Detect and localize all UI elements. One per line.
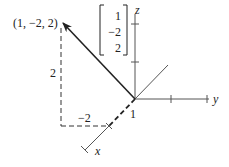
y-axis-label: y [212,92,219,106]
column-vector: 1 −2 2 [100,5,127,55]
z-axis [131,14,139,99]
left-bracket [100,5,104,55]
x-axis-label: x [94,144,101,158]
diagonal-guide-line [135,65,168,99]
x-axis-end-tick [81,146,88,153]
z-axis-label: z [134,3,140,17]
vector-entry-2: −2 [108,25,121,39]
vector-diagram: z y x (1, −2, 2) 2 −2 1 1 −2 2 [0,0,229,167]
point-label: (1, −2, 2) [13,16,58,30]
vector-arrow [63,23,135,99]
y-offset-label: −2 [78,111,91,125]
right-bracket [123,5,127,55]
vector-entry-1: 1 [115,9,121,23]
y-axis [135,95,209,103]
z-height-label: 2 [50,66,56,80]
vector-entry-3: 2 [115,41,121,55]
x-offset-label: 1 [130,107,136,121]
